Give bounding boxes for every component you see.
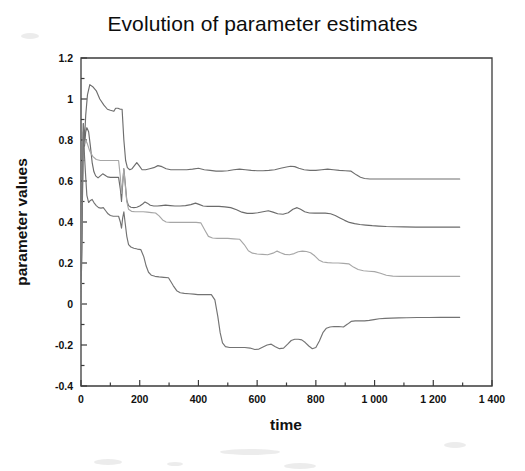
x-axis-label: time <box>270 416 302 433</box>
data-series-group <box>81 85 460 350</box>
x-tick-label: 1 000 <box>361 393 387 405</box>
x-tick-labels: 02004006008001 0001 2001 400 <box>78 393 505 405</box>
x-tick-label: 800 <box>307 393 325 405</box>
x-tick-label: 1 400 <box>479 393 505 405</box>
y-tick-label: -0.2 <box>55 339 73 351</box>
series-line-parameter-1 <box>81 85 460 304</box>
figure-container: Evolution of parameter estimates -0.4-0.… <box>0 0 525 471</box>
scan-artifacts <box>21 33 466 469</box>
x-tick-label: 1 200 <box>420 393 446 405</box>
y-tick-label: -0.4 <box>55 380 73 392</box>
y-axis-label: parameter values <box>13 158 30 286</box>
x-tick-label: 400 <box>190 393 208 405</box>
y-tick-label: 0.4 <box>58 216 73 228</box>
y-tick-label: 0.6 <box>58 175 73 187</box>
series-line-parameter-2 <box>81 128 460 304</box>
plot-frame <box>81 58 492 386</box>
x-tick-label: 0 <box>78 393 84 405</box>
y-tick-label: 0 <box>67 298 73 310</box>
line-chart: -0.4-0.200.20.40.60.811.2 02004006008001… <box>0 0 525 471</box>
y-tick-label: 0.2 <box>58 257 73 269</box>
x-tick-label: 600 <box>248 393 266 405</box>
y-tick-label: 0.8 <box>58 134 73 146</box>
y-tick-labels: -0.4-0.200.20.40.60.811.2 <box>55 52 73 392</box>
y-tick-label: 1 <box>67 93 73 105</box>
series-line-parameter-4 <box>81 124 460 350</box>
y-tick-label: 1.2 <box>58 52 73 64</box>
x-tick-label: 200 <box>131 393 149 405</box>
axis-ticks <box>81 58 492 386</box>
